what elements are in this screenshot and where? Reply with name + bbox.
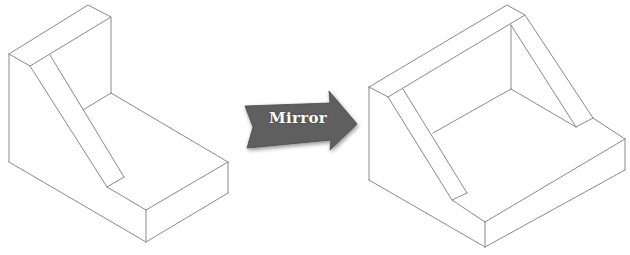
mirror-label: Mirror	[258, 109, 338, 127]
diagram-canvas	[0, 0, 630, 255]
mirrored-bracket	[369, 5, 625, 247]
original-bracket	[9, 5, 228, 242]
